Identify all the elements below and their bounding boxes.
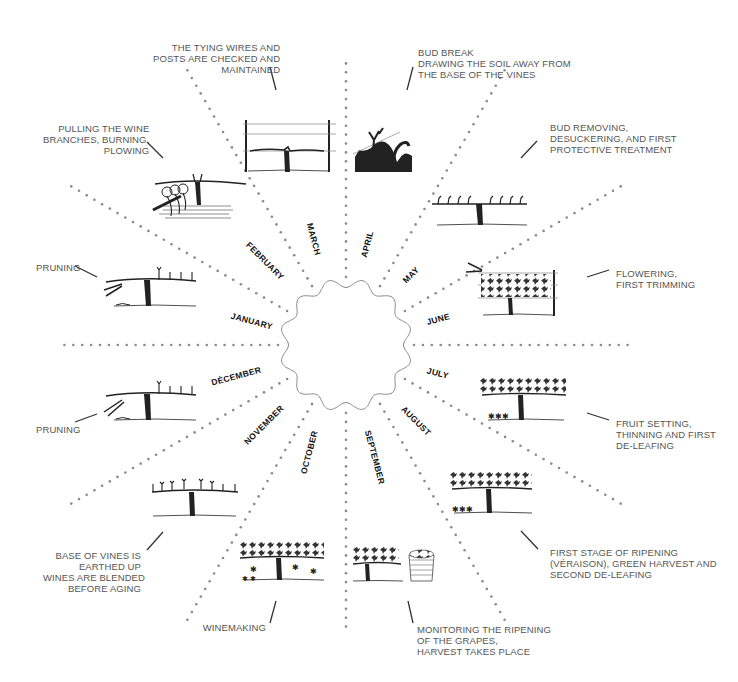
note-line: MONITORING THE RIPENING: [417, 624, 551, 635]
leader-february: [147, 142, 163, 158]
harvest-basket-icon: [353, 547, 434, 581]
note-february: PULLING THE WINE BRANCHES, BURNING, PLOW…: [43, 123, 149, 156]
note-line: THINNING AND FIRST: [616, 429, 716, 440]
note-july: FRUIT SETTING, THINNING AND FIRST DE-LEA…: [616, 418, 716, 451]
note-line: PROTECTIVE TREATMENT: [550, 144, 677, 155]
note-line: BEFORE AGING: [43, 583, 141, 594]
note-line: BRANCHES, BURNING,: [43, 134, 149, 145]
note-line: PRUNING: [36, 424, 81, 435]
leader-november: [147, 532, 163, 550]
svg-text:✱: ✱: [292, 563, 299, 572]
note-line: PRUNING: [36, 262, 81, 273]
note-january: PRUNING: [36, 262, 81, 273]
month-label-june: JUNE: [425, 311, 451, 327]
note-line: DESUCKERING, AND FIRST: [550, 133, 677, 144]
svg-text:✱ ✱: ✱ ✱: [242, 575, 256, 582]
note-line: BUD REMOVING,: [550, 122, 677, 133]
note-line: OF THE GRAPES,: [417, 635, 551, 646]
leader-july: [587, 413, 609, 420]
leader-september: [408, 601, 413, 623]
note-december: PRUNING: [36, 424, 81, 435]
fruit-setting-vine-icon: ✱✱✱: [480, 378, 566, 421]
leader-august: [521, 531, 538, 549]
note-line: BUD BREAK: [418, 47, 571, 58]
earthed-up-vine-icon: [152, 479, 238, 516]
month-label-march: MARCH: [305, 222, 323, 257]
leader-june: [587, 270, 609, 277]
note-may: BUD REMOVING, DESUCKERING, AND FIRST PRO…: [550, 122, 677, 155]
note-line: WINEMAKING: [196, 622, 266, 633]
basket: [409, 550, 434, 581]
svg-text:✱: ✱: [250, 565, 257, 574]
note-september: MONITORING THE RIPENING OF THE GRAPES, H…: [417, 624, 551, 657]
svg-text:✱: ✱: [310, 567, 317, 576]
month-label-october: OCTOBER: [299, 429, 320, 475]
note-line: FLOWERING,: [616, 268, 695, 279]
note-line: (VÉRAISON), GREEN HARVEST AND: [550, 558, 717, 569]
note-line: DE-LEAFING: [616, 440, 716, 451]
note-line: PULLING THE WINE: [43, 123, 149, 134]
note-line: PLOWING: [43, 145, 149, 156]
leader-may: [521, 141, 537, 158]
month-label-december: DÉCEMBER: [210, 365, 262, 388]
note-line: EARTHED UP: [43, 561, 141, 572]
note-line: POSTS ARE CHECKED AND: [153, 53, 280, 64]
note-line: THE TYING WIRES AND: [153, 42, 280, 53]
leader-december: [75, 414, 97, 422]
note-november: BASE OF VINES IS EARTHED UP WINES ARE BL…: [43, 550, 141, 594]
note-line: MAINTAINED: [153, 64, 280, 75]
svg-text:✱✱✱: ✱✱✱: [452, 505, 473, 514]
svg-text:✱✱✱: ✱✱✱: [488, 412, 509, 421]
month-label-november: NOVEMBER: [242, 403, 285, 446]
month-label-april: APRIL: [359, 230, 376, 259]
note-line: FIRST STAGE OF RIPENING: [550, 547, 717, 558]
month-label-september: SEPTEMBER: [363, 429, 387, 485]
note-june: FLOWERING, FIRST TRIMMING: [616, 268, 695, 290]
note-line: WINES ARE BLENDED: [43, 572, 141, 583]
leader-october: [270, 601, 276, 623]
note-line: SECOND DE-LEAFING: [550, 569, 717, 580]
flowering-vine-icon: [466, 263, 558, 316]
note-april: BUD BREAK DRAWING THE SOIL AWAY FROM THE…: [418, 47, 571, 80]
month-label-january: JANUARY: [230, 311, 274, 332]
winemaking-vine-icon: ✱ ✱ ✱ ✱ ✱: [240, 542, 324, 582]
center-wavy-circle: [282, 281, 411, 410]
trellis-wires-icon: [243, 120, 336, 172]
month-label-may: MAY: [401, 265, 422, 286]
note-line: THE BASE OF THE VINES: [418, 69, 571, 80]
budding-vine-icon: [432, 196, 527, 225]
foliage-rows: [481, 274, 551, 297]
month-label-july: JULY: [426, 365, 450, 380]
month-label-august: AUGUST: [399, 404, 433, 438]
note-line: HARVEST TAKES PLACE: [417, 646, 551, 657]
note-line: FIRST TRIMMING: [616, 279, 695, 290]
note-line: DRAWING THE SOIL AWAY FROM: [418, 58, 571, 69]
soil-drawing-icon: [353, 128, 412, 172]
note-october: WINEMAKING: [196, 622, 266, 633]
pruning-vine-icon: [104, 267, 196, 306]
pruning-vine-icon: [104, 381, 196, 420]
veraison-vine-icon: ✱✱✱: [450, 472, 532, 514]
note-line: FRUIT SETTING,: [616, 418, 716, 429]
plowing-vine-icon: [153, 174, 246, 218]
note-march: THE TYING WIRES AND POSTS ARE CHECKED AN…: [153, 42, 280, 75]
month-labels: JANUARY FEBRUARY MARCH APRIL MAY JUNE JU…: [210, 222, 451, 485]
leader-april: [407, 67, 413, 90]
note-august: FIRST STAGE OF RIPENING (VÉRAISON), GREE…: [550, 547, 717, 580]
month-label-february: FEBRUARY: [244, 240, 286, 282]
note-line: BASE OF VINES IS: [43, 550, 141, 561]
